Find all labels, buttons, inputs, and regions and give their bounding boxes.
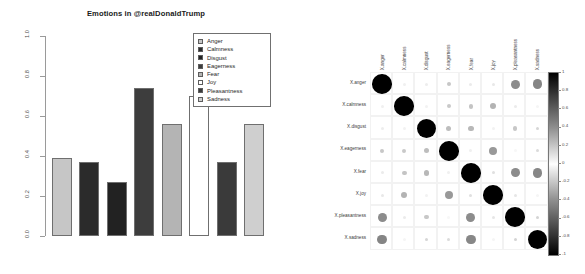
colorbar-tick bbox=[558, 72, 561, 73]
legend-item-anger: Anger bbox=[198, 37, 266, 45]
legend-label: Eagerness bbox=[207, 62, 235, 70]
matrix-dot bbox=[469, 83, 472, 86]
colorbar-tick bbox=[558, 145, 561, 146]
legend-swatch-icon bbox=[198, 47, 203, 52]
matrix-cell bbox=[370, 72, 392, 94]
matrix-dot bbox=[447, 171, 450, 174]
colorbar-tick bbox=[558, 236, 561, 237]
matrix-dot bbox=[377, 235, 386, 244]
legend-item-disgust: Disgust bbox=[198, 54, 266, 62]
matrix-cell bbox=[392, 205, 414, 227]
matrix-cell bbox=[392, 161, 414, 183]
matrix-cell bbox=[370, 227, 392, 249]
legend-label: Anger bbox=[207, 37, 223, 45]
matrix-dot bbox=[381, 105, 384, 108]
y-tick-label: 0.8 bbox=[14, 71, 40, 81]
matrix-cell bbox=[437, 94, 459, 116]
colorbar-tick-label: 0.6 bbox=[562, 106, 568, 110]
matrix-cell bbox=[525, 72, 547, 94]
matrix-cell bbox=[437, 161, 459, 183]
matrix-cell bbox=[414, 161, 436, 183]
column-label-calmness: X.calmness bbox=[403, 47, 408, 71]
matrix-cell bbox=[437, 139, 459, 161]
column-label-joy: X.joy bbox=[491, 60, 496, 70]
row-label-eagerness: X.eagerness bbox=[300, 147, 366, 152]
matrix-cell bbox=[370, 183, 392, 205]
matrix-dot bbox=[402, 149, 406, 153]
matrix-cell bbox=[459, 116, 481, 138]
matrix-dot bbox=[394, 96, 414, 116]
matrix-cell bbox=[459, 72, 481, 94]
barplot-legend: AngerCalmnessDisgustEagernessFearJoyPlea… bbox=[193, 33, 271, 107]
row-label-calmness: X.calmness bbox=[300, 103, 366, 108]
legend-label: Calmness bbox=[207, 45, 233, 53]
matrix-dot bbox=[492, 216, 495, 219]
matrix-cell bbox=[481, 72, 503, 94]
matrix-dot bbox=[536, 194, 539, 197]
matrix-dot bbox=[492, 127, 495, 130]
matrix-dot bbox=[425, 105, 428, 108]
matrix-cell bbox=[459, 139, 481, 161]
legend-item-calmness: Calmness bbox=[198, 45, 266, 53]
column-label-disgust: X.disgust bbox=[425, 51, 430, 70]
matrix-dot bbox=[439, 141, 459, 161]
y-tick-label: 0.4 bbox=[14, 151, 40, 161]
y-tick bbox=[40, 36, 45, 37]
y-tick bbox=[40, 116, 45, 117]
correlation-colorbar bbox=[548, 72, 559, 256]
row-label-joy: X.joy bbox=[300, 192, 366, 197]
legend-label: Pleasantness bbox=[207, 87, 242, 95]
matrix-cell bbox=[414, 227, 436, 249]
matrix-dot bbox=[461, 163, 481, 183]
legend-label: Sadness bbox=[207, 95, 230, 103]
matrix-dot bbox=[469, 194, 472, 197]
correlation-matrix-grid bbox=[370, 72, 548, 250]
matrix-cell bbox=[481, 116, 503, 138]
matrix-dot bbox=[381, 171, 384, 174]
colorbar-tick-label: 0 bbox=[562, 161, 564, 165]
legend-item-joy: Joy bbox=[198, 78, 266, 86]
matrix-dot bbox=[446, 126, 451, 131]
matrix-cell bbox=[459, 183, 481, 205]
matrix-dot bbox=[424, 148, 429, 153]
matrix-cell bbox=[503, 116, 525, 138]
matrix-dot bbox=[492, 83, 495, 86]
matrix-cell bbox=[481, 227, 503, 249]
matrix-cell bbox=[392, 72, 414, 94]
colorbar-tick-label: -0.6 bbox=[562, 215, 570, 219]
colorbar-tick bbox=[558, 163, 561, 164]
bar-pleasantness bbox=[217, 162, 237, 236]
row-label-sadness: X.sadness bbox=[300, 236, 366, 241]
matrix-dot bbox=[514, 105, 517, 108]
y-tick-label-text: 0.8 bbox=[24, 61, 30, 87]
matrix-dot bbox=[469, 149, 472, 152]
matrix-dot bbox=[528, 230, 548, 250]
legend-swatch-icon bbox=[198, 39, 203, 44]
matrix-cell bbox=[481, 183, 503, 205]
colorbar-tick-label: 0.4 bbox=[562, 124, 568, 128]
y-tick-label-text: 0.0 bbox=[24, 221, 30, 247]
legend-swatch-icon bbox=[198, 55, 203, 60]
matrix-cell bbox=[481, 205, 503, 227]
colorbar-tick-label: -0.2 bbox=[562, 179, 570, 183]
matrix-cell bbox=[392, 183, 414, 205]
colorbar-tick bbox=[558, 254, 561, 255]
matrix-dot bbox=[490, 103, 496, 109]
matrix-cell bbox=[503, 161, 525, 183]
matrix-dot bbox=[514, 149, 517, 152]
matrix-cell bbox=[392, 94, 414, 116]
legend-label: Disgust bbox=[207, 54, 227, 62]
matrix-cell bbox=[414, 94, 436, 116]
colorbar-tick bbox=[558, 127, 561, 128]
matrix-dot bbox=[417, 119, 437, 139]
matrix-cell bbox=[459, 227, 481, 249]
colorbar-tick bbox=[558, 199, 561, 200]
y-tick bbox=[40, 76, 45, 77]
matrix-dot bbox=[425, 238, 428, 241]
matrix-dot bbox=[514, 194, 517, 197]
matrix-dot bbox=[425, 194, 428, 197]
matrix-cell bbox=[437, 72, 459, 94]
column-label-pleasantness: X.pleasantness bbox=[514, 39, 519, 70]
matrix-dot bbox=[402, 171, 407, 176]
emotion-barplot-panel: Emotions in @realDonaldTrump 1.00.80.60.… bbox=[0, 0, 292, 274]
